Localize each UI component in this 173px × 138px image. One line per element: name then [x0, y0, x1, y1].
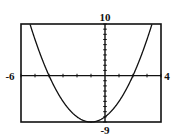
ymax-label: 10 — [100, 11, 112, 23]
ymin-label: -9 — [100, 124, 110, 136]
viewing-window-frame — [21, 24, 161, 122]
axis-ticks — [21, 24, 161, 122]
graph-window: 10 -9 -6 4 — [0, 0, 173, 138]
xmin-label: -6 — [5, 70, 15, 82]
xmax-label: 4 — [164, 70, 170, 82]
parabola-curve — [30, 24, 152, 122]
